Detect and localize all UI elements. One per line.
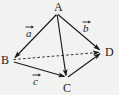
vertex-label-D: D	[105, 46, 114, 58]
edge-BD-dashed	[14, 52, 100, 59]
vertex-label-B: B	[1, 54, 9, 66]
edge-AD	[58, 15, 100, 50]
tetrahedron-vector-figure: A B C D a b c	[0, 0, 119, 95]
vector-label-b: b	[83, 20, 89, 34]
edge-AC	[57, 15, 66, 76]
vector-label-c: c	[33, 73, 38, 87]
vector-label-a: a	[26, 25, 32, 39]
vertex-label-C: C	[63, 82, 71, 94]
figure-canvas	[0, 0, 119, 95]
vertex-label-A: A	[54, 1, 63, 13]
edge-CD	[68, 54, 100, 77]
vector-arrow-accent-icon	[82, 20, 91, 24]
edge-AB	[15, 15, 57, 58]
vector-arrow-accent-icon	[25, 25, 34, 29]
vector-arrow-accent-icon	[32, 73, 41, 77]
